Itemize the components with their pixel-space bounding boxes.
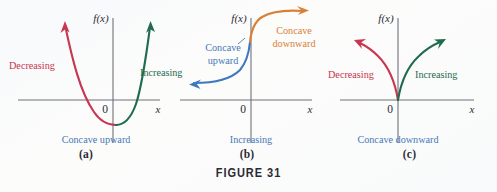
- annotation-concave-upward: Concave upward: [62, 134, 131, 145]
- arrowhead-red: [354, 39, 366, 49]
- y-axis-label: f(x): [231, 12, 247, 25]
- x-axis-label: x: [155, 103, 161, 115]
- annotation-decreasing: Decreasing: [328, 69, 374, 80]
- origin-label: 0: [102, 103, 108, 115]
- pointer-blue: [238, 38, 245, 44]
- figure-container: f(x) x 0 Decreasing Increasing Concave u…: [0, 0, 497, 192]
- annotation-increasing: Increasing: [230, 134, 272, 145]
- arrowhead-red: [61, 21, 70, 33]
- origin-label: 0: [387, 103, 393, 115]
- curve-decreasing-red: [65, 25, 116, 125]
- x-axis-label: x: [307, 103, 313, 115]
- annotation-concave-upward-line2: upward: [208, 55, 239, 66]
- panel-c: f(x) x 0 Decreasing Increasing Concave d…: [322, 0, 497, 175]
- origin-label: 0: [240, 103, 246, 115]
- annotation-concave-downward-line1: Concave: [276, 25, 312, 36]
- annotation-concave-downward-line2: downward: [272, 38, 315, 49]
- annotation-concave-upward-line1: Concave: [205, 42, 241, 53]
- figure-caption: FIGURE 31: [30, 166, 467, 180]
- x-axis-label: x: [469, 103, 475, 115]
- panel-a-sublabel: (a): [0, 148, 172, 160]
- panel-a: f(x) x 0 Decreasing Increasing Concave u…: [0, 0, 172, 175]
- y-axis-label: f(x): [378, 12, 394, 25]
- annotation-decreasing: Decreasing: [9, 60, 55, 71]
- arrowhead-blue: [189, 80, 201, 90]
- panel-b: f(x) x 0 Concave upward Concave downward…: [172, 0, 322, 175]
- annotation-increasing: Increasing: [415, 69, 457, 80]
- y-axis-label: f(x): [93, 12, 109, 25]
- annotation-concave-downward: Concave downward: [357, 134, 438, 145]
- panel-b-sublabel: (b): [172, 148, 322, 160]
- panel-c-sublabel: (c): [322, 148, 497, 160]
